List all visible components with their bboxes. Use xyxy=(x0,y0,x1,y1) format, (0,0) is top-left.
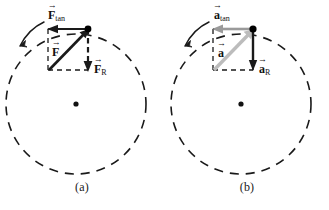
panel-b-caption: (b) xyxy=(165,180,329,195)
circle-center-dot xyxy=(238,101,243,106)
tangential-acceleration-label: →atan xyxy=(214,6,230,22)
physics-figure: →Ftan →F →FR (a) xyxy=(0,0,329,210)
resultant-acceleration-label: →a xyxy=(218,44,224,60)
panel-a-drawing xyxy=(0,0,164,210)
tangential-acceleration-subscript: tan xyxy=(220,14,230,23)
vector-accent-arrow: → xyxy=(258,56,267,62)
radial-acceleration-label: →aR xyxy=(259,60,270,76)
vector-accent-arrow: → xyxy=(217,40,226,46)
tangential-force-arrowhead xyxy=(47,25,58,34)
panel-b: →atan →a →aR (b) xyxy=(165,0,329,210)
tangential-force-subscript: tan xyxy=(55,14,65,23)
radial-acceleration-subscript: R xyxy=(265,68,270,77)
panel-a: →Ftan →F →FR (a) xyxy=(0,0,164,210)
circle-center-dot xyxy=(73,101,78,106)
vector-accent-arrow: → xyxy=(93,56,103,62)
radial-force-subscript: R xyxy=(101,68,106,77)
particle-dot xyxy=(85,26,92,33)
vector-accent-arrow: → xyxy=(47,2,57,8)
particle-dot xyxy=(249,25,256,32)
panel-a-caption: (a) xyxy=(0,180,164,195)
vector-accent-arrow: → xyxy=(213,2,222,8)
resultant-force-label: →F xyxy=(52,43,59,59)
vector-accent-arrow: → xyxy=(51,39,61,45)
tangential-force-label: →Ftan xyxy=(48,6,65,22)
panel-b-drawing xyxy=(165,0,329,210)
radial-force-label: →FR xyxy=(94,60,107,76)
